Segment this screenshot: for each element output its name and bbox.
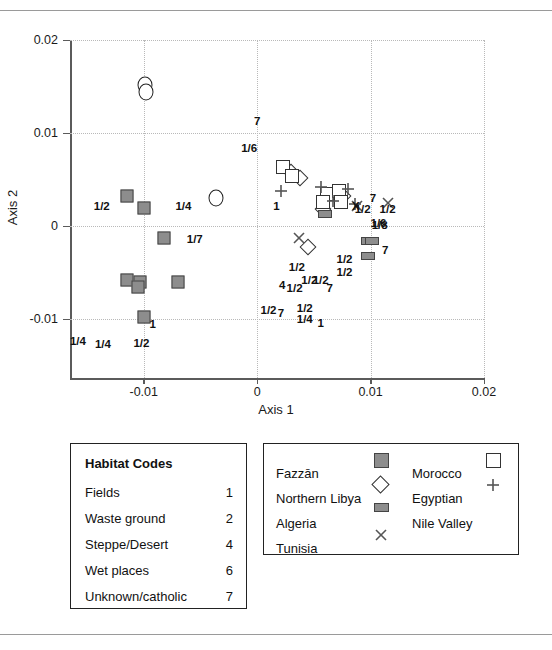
y-gridline bbox=[70, 133, 484, 134]
data-point-nile-valley bbox=[209, 190, 224, 207]
point-annotation: 1 bbox=[150, 318, 156, 329]
point-annotation: 1/2 bbox=[287, 282, 303, 293]
open-square-icon-shape bbox=[486, 453, 501, 468]
habitat-code: 1 bbox=[226, 485, 233, 500]
point-annotation: 1/2 bbox=[355, 203, 371, 214]
point-annotation: 7 bbox=[382, 245, 388, 256]
point-annotation: 1/2 bbox=[336, 266, 352, 277]
data-point-fazzan bbox=[158, 232, 171, 245]
data-point-morocco bbox=[285, 169, 299, 183]
legend-label-algeria: Algeria bbox=[276, 516, 316, 531]
habitat-name: Fields bbox=[85, 485, 120, 500]
y-gridline bbox=[70, 40, 484, 41]
point-annotation: 1/4 bbox=[297, 314, 313, 325]
point-annotation: 1/2 bbox=[336, 253, 352, 264]
top-divider bbox=[0, 10, 552, 11]
group-legend: FazzānNorthern LibyaAlgeriaTunisiaMorocc… bbox=[263, 443, 519, 555]
data-point-tunisia bbox=[292, 231, 306, 245]
open-square-icon bbox=[486, 453, 501, 468]
habitat-name: Unknown/catholic bbox=[85, 589, 187, 604]
legend-label-egyptian: Egyptian bbox=[412, 491, 463, 506]
point-annotation: 7 bbox=[278, 307, 284, 318]
x-tick bbox=[370, 378, 372, 384]
x-gridline bbox=[371, 40, 372, 378]
point-annotation: 1/2 bbox=[94, 200, 110, 211]
data-point-egyptian bbox=[341, 182, 355, 196]
x-tick-label: 0.02 bbox=[454, 386, 514, 398]
plus-icon bbox=[486, 478, 500, 496]
point-annotation: 7 bbox=[327, 282, 333, 293]
x-tick-label: 0 bbox=[227, 386, 287, 398]
point-annotation: 1/2 bbox=[289, 262, 305, 273]
y-axis-title: Axis 2 bbox=[5, 158, 20, 258]
habitat-legend-title: Habitat Codes bbox=[85, 456, 172, 471]
data-point-egyptian bbox=[314, 180, 328, 194]
open-diamond-icon bbox=[374, 478, 387, 491]
data-point-fazzan bbox=[171, 276, 184, 289]
data-point-algeria bbox=[361, 252, 375, 260]
point-annotation: 7 bbox=[254, 116, 260, 127]
x-icon bbox=[374, 528, 388, 546]
point-annotation: 4 bbox=[279, 279, 285, 290]
habitat-name: Waste ground bbox=[85, 511, 165, 526]
point-annotation: 1/8 bbox=[372, 220, 388, 231]
data-point-nile-valley bbox=[138, 84, 153, 101]
point-annotation: 1 bbox=[317, 318, 323, 329]
data-point-algeria bbox=[318, 210, 332, 218]
x-tick bbox=[257, 378, 259, 384]
legend-label-northern-libya: Northern Libya bbox=[276, 491, 361, 506]
legend-label-tunisia: Tunisia bbox=[276, 541, 317, 556]
point-annotation: 1/4 bbox=[175, 200, 191, 211]
y-tick bbox=[63, 40, 70, 42]
x-tick-label: -0.01 bbox=[114, 386, 174, 398]
y-tick-label: 0.01 bbox=[0, 127, 58, 139]
habitat-code: 4 bbox=[226, 537, 233, 552]
data-point-fazzan bbox=[120, 190, 133, 203]
point-annotation: 1/2 bbox=[380, 203, 396, 214]
habitat-code: 7 bbox=[226, 589, 233, 604]
data-point-fazzan bbox=[137, 201, 150, 214]
x-axis-line bbox=[70, 378, 484, 380]
y-tick-label: -0.01 bbox=[0, 313, 58, 325]
habitat-name: Wet places bbox=[85, 563, 149, 578]
filled-square-icon-shape bbox=[374, 453, 389, 468]
legend-label-fazzān: Fazzān bbox=[276, 466, 319, 481]
filled-square-icon bbox=[374, 453, 389, 468]
y-tick bbox=[63, 319, 70, 321]
y-gridline bbox=[70, 319, 484, 320]
habitat-codes-legend: Habitat Codes Fields1Waste ground2Steppe… bbox=[70, 443, 247, 609]
habitat-name: Steppe/Desert bbox=[85, 537, 168, 552]
legend-label-nile-valley: Nile Valley bbox=[412, 516, 472, 531]
point-annotation: 7 bbox=[370, 193, 376, 204]
y-tick bbox=[63, 133, 70, 135]
x-axis-title: Axis 1 bbox=[0, 402, 552, 417]
x-tick-label: 0.01 bbox=[341, 386, 401, 398]
bottom-divider bbox=[0, 634, 552, 635]
point-annotation: 1/6 bbox=[241, 143, 257, 154]
scatter-plot: -0.0100.010.02-0.0100.010.02 71/61/21/41… bbox=[0, 14, 552, 414]
y-tick bbox=[63, 226, 70, 228]
point-annotation: 1/2 bbox=[133, 337, 149, 348]
y-gridline bbox=[70, 226, 484, 227]
x-gridline bbox=[484, 40, 485, 378]
legend-label-morocco: Morocco bbox=[412, 466, 462, 481]
filled-rect-icon-shape bbox=[374, 503, 389, 512]
filled-rect-icon bbox=[374, 503, 389, 512]
habitat-code: 2 bbox=[226, 511, 233, 526]
open-diamond-icon-shape bbox=[371, 475, 389, 493]
y-axis-line bbox=[70, 40, 72, 379]
point-annotation: 1 bbox=[273, 200, 279, 211]
data-point-fazzan bbox=[132, 280, 145, 293]
data-point-egyptian bbox=[326, 194, 340, 208]
y-tick-label: 0.02 bbox=[0, 34, 58, 46]
data-point-fazzan bbox=[137, 311, 150, 324]
data-point-egyptian bbox=[274, 184, 288, 198]
point-annotation: 1/7 bbox=[187, 234, 203, 245]
point-annotation: 1/2 bbox=[260, 305, 276, 316]
data-point-algeria bbox=[365, 237, 379, 245]
point-annotation: 1/4 bbox=[70, 335, 86, 346]
x-gridline bbox=[257, 40, 258, 378]
x-tick bbox=[484, 378, 486, 384]
habitat-code: 6 bbox=[226, 563, 233, 578]
x-tick bbox=[143, 378, 145, 384]
